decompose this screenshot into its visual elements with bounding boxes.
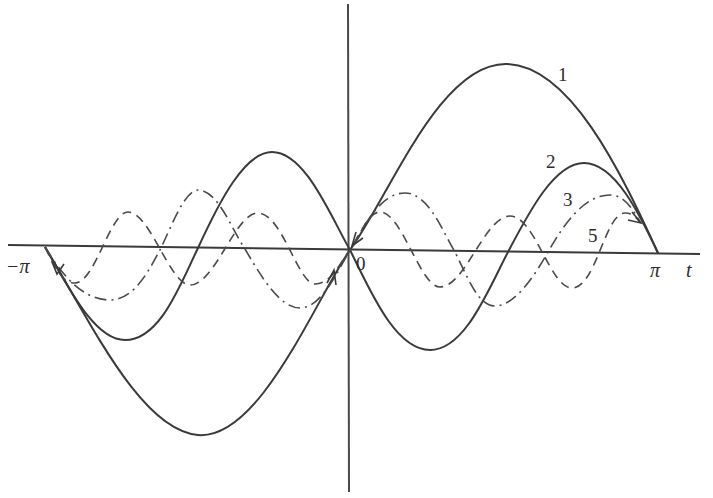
curve-family-diagram: −π 0 π t 1 2 3 5 xyxy=(0,0,713,498)
x-axis xyxy=(8,245,700,254)
curve-label-2: 2 xyxy=(546,151,556,172)
x-axis-label: t xyxy=(686,259,692,281)
tick-label-pi: π xyxy=(650,259,661,281)
curve-label-5: 5 xyxy=(588,225,598,246)
curve-2 xyxy=(45,152,658,350)
curve-label-3: 3 xyxy=(563,189,573,210)
curve-label-1: 1 xyxy=(558,64,568,85)
tick-label-origin: 0 xyxy=(356,253,366,274)
curve-1 xyxy=(45,64,658,435)
tick-label-minus-pi: −π xyxy=(6,255,30,277)
